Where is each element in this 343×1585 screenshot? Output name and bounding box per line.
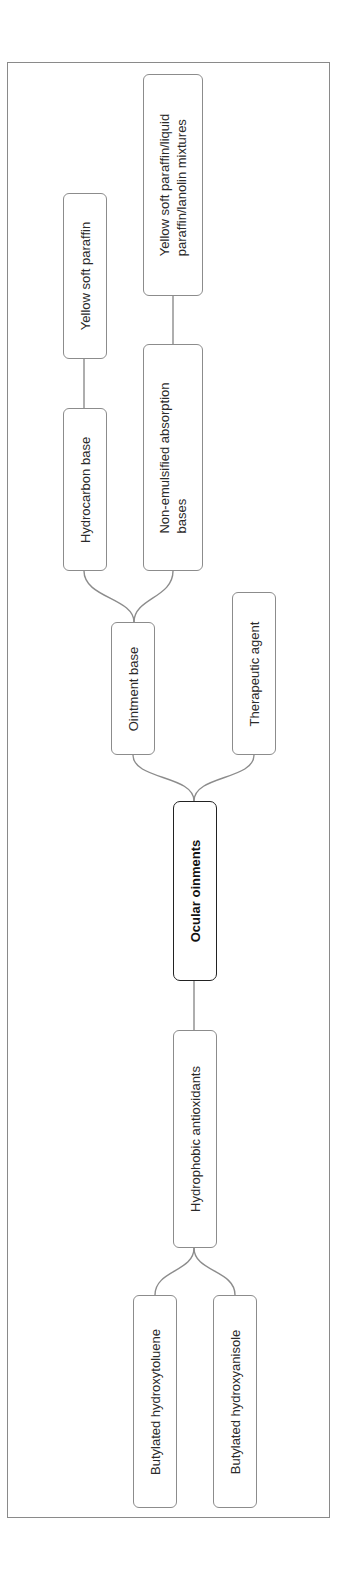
node-hydrophobic-antioxidants: Hydrophobic antioxidants [173,1030,217,1248]
node-label: Ointment base [125,646,142,731]
node-butylated-hydroxytoluene: Butylated hydroxytoluene [133,1295,177,1508]
node-root-ocular-ointments: Ocular oinments [173,801,217,981]
node-label-line2: bases [173,382,190,533]
node-label-line1: Yellow soft paraffin/liquid [156,114,173,256]
edge-antioxidants-bht [155,1248,194,1295]
node-label: Non-emulsified absorption bases [156,382,190,533]
node-label-line2: paraffin/lanolin mixtures [173,114,190,256]
node-label: Therapeutic agent [246,621,263,726]
node-label: Yellow soft paraffin [77,222,94,330]
edge-ointment-hydrocarbon [84,571,134,622]
edge-ointment-nonemulsified [134,571,173,622]
edge-root-therapeutic [194,755,254,801]
node-non-emulsified-absorption-bases: Non-emulsified absorption bases [143,344,203,571]
node-ointment-base: Ointment base [111,622,155,755]
edge-antioxidants-bha [194,1248,235,1295]
node-therapeutic-agent: Therapeutic agent [232,592,276,755]
node-label: Hydrophobic antioxidants [187,1066,204,1212]
root-label: Ocular oinments [187,840,204,943]
node-label-line1: Non-emulsified absorption [156,382,173,533]
edge-root-ointment [133,755,194,801]
node-butylated-hydroxyanisole: Butylated hydroxyanisole [213,1295,257,1508]
node-hydrocarbon-base: Hydrocarbon base [63,408,107,571]
node-yellow-soft-paraffin: Yellow soft paraffin [63,193,107,359]
node-label: Butylated hydroxyanisole [227,1329,244,1474]
node-label: Butylated hydroxytoluene [147,1329,164,1475]
node-label: Yellow soft paraffin/liquid paraffin/lan… [156,114,190,256]
node-label: Hydrocarbon base [77,436,94,542]
node-paraffin-lanolin-mixtures: Yellow soft paraffin/liquid paraffin/lan… [143,74,203,296]
